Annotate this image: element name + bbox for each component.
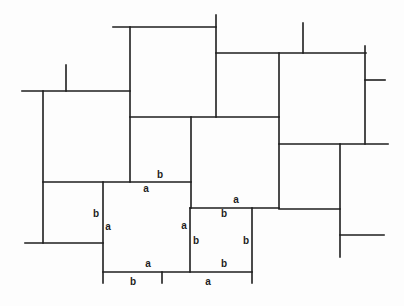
side-label-a: a bbox=[205, 277, 211, 287]
side-label-b: b bbox=[157, 170, 163, 180]
side-label-b: b bbox=[243, 236, 249, 246]
side-label-b: b bbox=[193, 236, 199, 246]
side-label-a: a bbox=[143, 184, 149, 194]
side-label-b: b bbox=[93, 209, 99, 219]
side-label-a: a bbox=[145, 259, 151, 269]
side-label-a: a bbox=[233, 195, 239, 205]
side-label-a: a bbox=[105, 222, 111, 232]
side-label-b: b bbox=[221, 209, 227, 219]
side-label-b: b bbox=[130, 277, 136, 287]
side-label-b: b bbox=[221, 259, 227, 269]
side-label-a: a bbox=[181, 221, 187, 231]
tiling-diagram: babaaabbbabba bbox=[0, 0, 404, 306]
tiling-edges bbox=[0, 0, 404, 306]
